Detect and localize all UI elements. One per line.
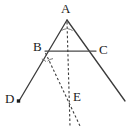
vertex-label-d: D [5,92,14,105]
vertex-label-a: A [61,2,70,15]
geometry-canvas [0,0,135,128]
geometry-figure: A B C D E [0,0,135,128]
vertex-label-b: B [33,40,42,53]
point-marker-d-icon [17,99,20,102]
dashed-bisector-from-A [67,22,70,126]
vertex-label-c: C [99,43,108,56]
vertex-label-e: E [73,90,81,103]
line-A-to-D [19,20,67,101]
angle-mark-a-right-icon [68,29,73,31]
